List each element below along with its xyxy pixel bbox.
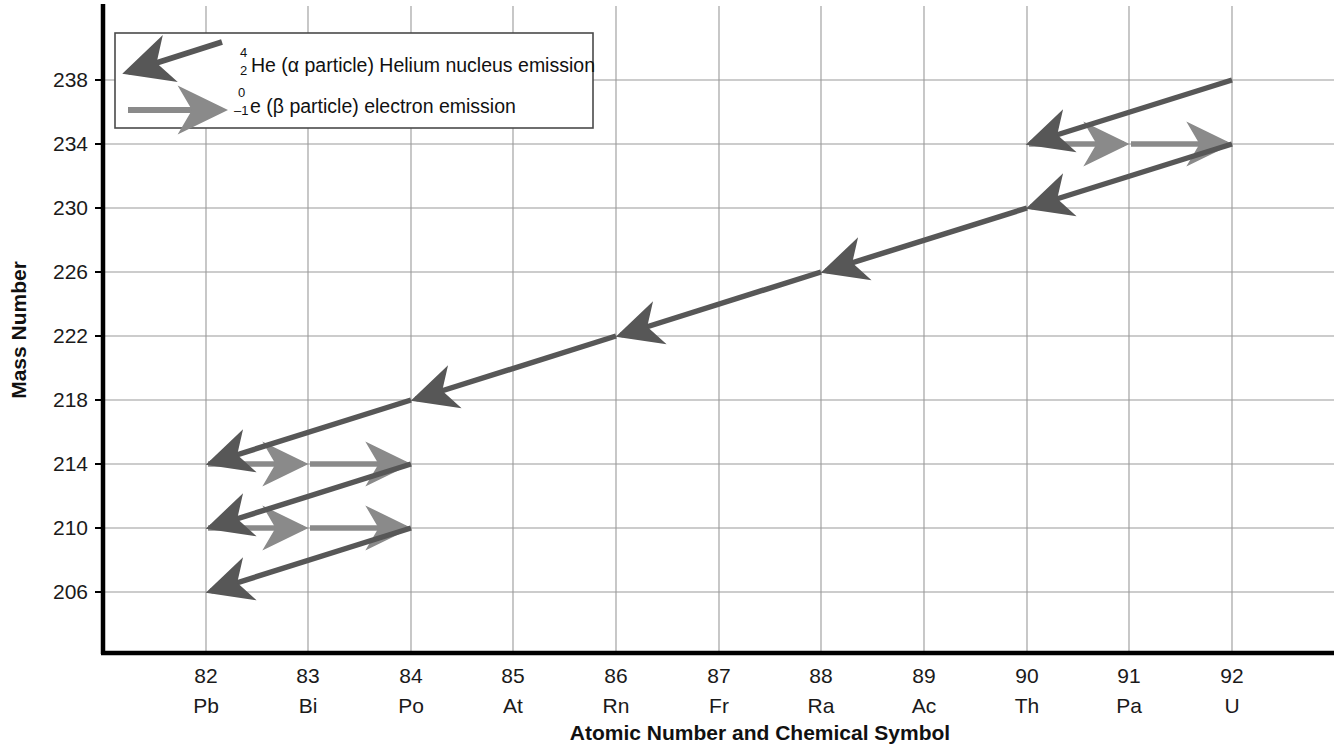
y-tick-label: 222 bbox=[53, 324, 88, 347]
x-tick-symbol: Ra bbox=[808, 694, 835, 717]
x-axis-title: Atomic Number and Chemical Symbol bbox=[570, 721, 950, 744]
y-axis-title: Mass Number bbox=[7, 261, 30, 399]
y-tick-label: 214 bbox=[53, 452, 88, 475]
legend-beta-subscript: –1 bbox=[234, 103, 248, 118]
legend-alpha-superscript: 4 bbox=[240, 45, 247, 60]
x-tick-symbol: Po bbox=[398, 694, 424, 717]
y-tick-label: 206 bbox=[53, 580, 88, 603]
x-tick-number: 84 bbox=[399, 664, 423, 687]
uranium-238-decay-series-chart: 238 234 230 226 222 218 214 210 206 Mass… bbox=[0, 0, 1334, 745]
x-tick-symbol: Rn bbox=[603, 694, 630, 717]
x-tick-number: 89 bbox=[912, 664, 935, 687]
x-tick-number: 85 bbox=[501, 664, 524, 687]
x-tick-number: 82 bbox=[194, 664, 217, 687]
x-tick-symbol: At bbox=[503, 694, 523, 717]
x-tick-symbol: Ac bbox=[912, 694, 937, 717]
x-tick-symbol: U bbox=[1224, 694, 1239, 717]
x-tick-number: 88 bbox=[809, 664, 832, 687]
y-tick-label: 230 bbox=[53, 196, 88, 219]
x-tick-symbol: Th bbox=[1015, 694, 1040, 717]
legend-beta-superscript: 0 bbox=[238, 85, 245, 100]
y-tick-label: 234 bbox=[53, 132, 88, 155]
legend-beta-label: e (β particle) electron emission bbox=[250, 95, 516, 117]
x-axis-symbol-labels: Pb Bi Po At Rn Fr Ra Ac Th Pa U bbox=[193, 694, 1239, 717]
x-tick-symbol: Fr bbox=[709, 694, 729, 717]
x-axis-number-labels: 82 83 84 85 86 87 88 89 90 91 92 bbox=[194, 664, 1243, 687]
x-tick-number: 92 bbox=[1220, 664, 1243, 687]
legend: 4 2 He (α particle) Helium nucleus emiss… bbox=[115, 33, 595, 128]
y-tick-label: 238 bbox=[53, 68, 88, 91]
legend-alpha-subscript: 2 bbox=[240, 63, 247, 78]
x-tick-symbol: Pa bbox=[1116, 694, 1142, 717]
decay-series-figure: 238 234 230 226 222 218 214 210 206 Mass… bbox=[0, 0, 1334, 745]
x-tick-number: 90 bbox=[1015, 664, 1038, 687]
x-tick-symbol: Pb bbox=[193, 694, 219, 717]
x-tick-number: 83 bbox=[296, 664, 319, 687]
x-tick-symbol: Bi bbox=[299, 694, 318, 717]
y-tick-label: 210 bbox=[53, 516, 88, 539]
x-tick-number: 86 bbox=[604, 664, 627, 687]
y-tick-label: 218 bbox=[53, 388, 88, 411]
legend-alpha-label: He (α particle) Helium nucleus emission bbox=[251, 54, 595, 76]
y-axis-tick-labels: 238 234 230 226 222 218 214 210 206 bbox=[53, 68, 88, 603]
y-tick-label: 226 bbox=[53, 260, 88, 283]
x-tick-number: 87 bbox=[707, 664, 730, 687]
x-tick-number: 91 bbox=[1117, 664, 1140, 687]
